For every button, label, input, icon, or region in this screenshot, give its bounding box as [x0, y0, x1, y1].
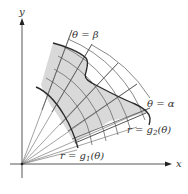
label-r-g1: r = g1(θ): [60, 150, 104, 163]
y-axis-arrow-icon: [20, 18, 25, 25]
label-theta-alpha: θ = α: [147, 98, 175, 109]
origin-dot: [21, 163, 24, 166]
x-axis-label: x: [176, 158, 182, 169]
diagram-svg: y x θ = β θ = α r = g2(θ) r = g1(θ): [0, 0, 188, 194]
x-axis-arrow-icon: [165, 162, 172, 167]
y-axis-label: y: [18, 6, 25, 17]
polar-region-diagram: y x θ = β θ = α r = g2(θ) r = g1(θ): [0, 0, 188, 194]
label-r-g2: r = g2(θ): [127, 124, 171, 137]
label-theta-beta: θ = β: [72, 29, 99, 40]
